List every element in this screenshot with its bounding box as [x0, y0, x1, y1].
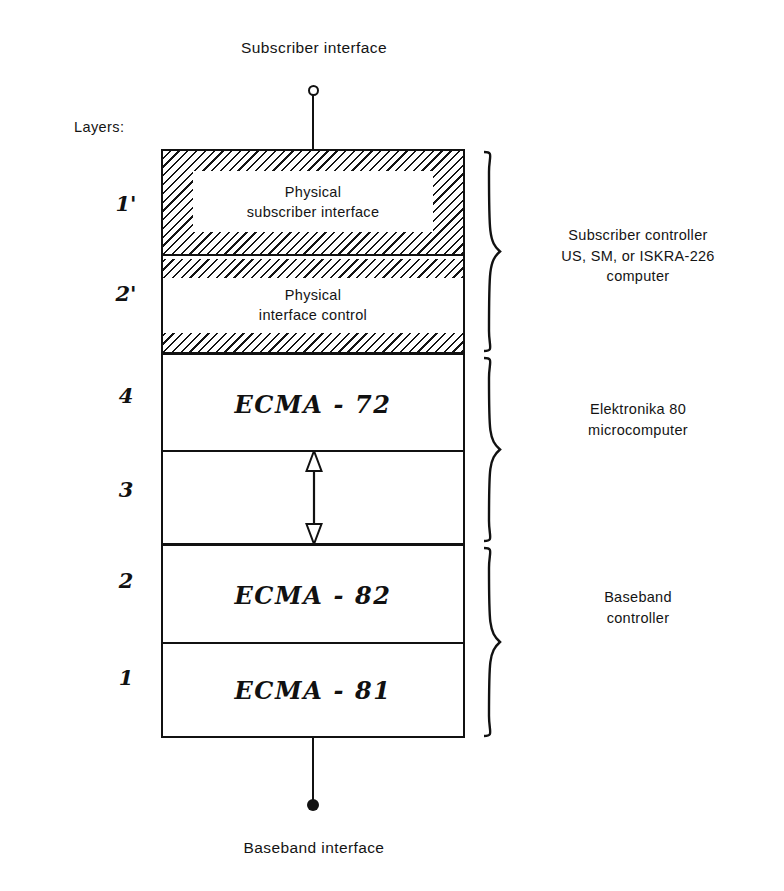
- layer-1-prime-label-plate: Physical subscriber interface: [193, 171, 433, 232]
- group-label-baseband-line1: Baseband: [604, 589, 672, 605]
- layer-2-prime-hatch-bottom: [163, 333, 463, 352]
- layer-1-label: ECMA - 81: [163, 676, 463, 705]
- layer-2-prime-hatch-top: [163, 259, 463, 278]
- layer-band-1: ECMA - 81: [163, 646, 463, 736]
- layer-number-2-prime: 2': [103, 281, 149, 306]
- layer-number-2: 2: [103, 568, 149, 593]
- layer-band-2-prime: Physical interface control: [163, 259, 463, 355]
- subscriber-interface-stem: [312, 94, 314, 151]
- group-label-baseband-line2: controller: [607, 610, 670, 626]
- group-label-elektronika-line1: Elektronika 80: [590, 401, 686, 417]
- layer-number-1: 1: [103, 665, 149, 690]
- layer-number-3: 3: [103, 477, 149, 502]
- brace-baseband-controller: [478, 546, 504, 738]
- layer-number-1-prime: 1': [103, 191, 149, 216]
- diagram-canvas: Subscriber interface Layers: 1' 2' 4 3 2…: [0, 0, 784, 891]
- baseband-interface-caption: Baseband interface: [0, 838, 628, 858]
- layer-1-prime-label-line1: Physical: [285, 184, 341, 200]
- group-label-subscriber-controller: Subscriber controller US, SM, or ISKRA-2…: [513, 225, 763, 287]
- layer-1-prime-label-line2: subscriber interface: [247, 204, 380, 220]
- layer-band-2: ECMA - 82: [163, 548, 463, 644]
- brace-elektronika: [478, 356, 504, 543]
- layers-caption: Layers:: [74, 118, 124, 137]
- baseband-interface-stem: [312, 737, 314, 801]
- baseband-interface-filled-node: [307, 799, 319, 811]
- brace-subscriber-controller: [478, 150, 504, 353]
- group-label-elektronika: Elektronika 80 microcomputer: [513, 399, 763, 440]
- layer-2-prime-label: Physical interface control: [163, 285, 463, 325]
- protocol-stack-box: Physical subscriber interface Physical i…: [161, 149, 465, 738]
- layer-2-prime-label-line2: interface control: [259, 307, 367, 323]
- layer-1-prime-label: Physical subscriber interface: [193, 182, 433, 222]
- layer-4-label: ECMA - 72: [163, 390, 463, 419]
- layer-2-prime-label-line1: Physical: [285, 287, 341, 303]
- group-label-subscriber-line1: Subscriber controller: [568, 227, 707, 243]
- group-label-subscriber-line3: computer: [607, 268, 670, 284]
- layer-2-label: ECMA - 82: [163, 580, 463, 609]
- layer-number-4: 4: [103, 383, 149, 408]
- group-label-elektronika-line2: microcomputer: [588, 422, 688, 438]
- layer-band-4: ECMA - 72: [163, 358, 463, 452]
- subscriber-interface-caption: Subscriber interface: [0, 38, 628, 58]
- group-label-baseband-controller: Baseband controller: [513, 587, 763, 628]
- group-label-subscriber-line2: US, SM, or ISKRA-226: [561, 248, 714, 264]
- layer-3-double-arrow: [303, 451, 325, 544]
- layer-band-1-prime: Physical subscriber interface: [163, 151, 463, 256]
